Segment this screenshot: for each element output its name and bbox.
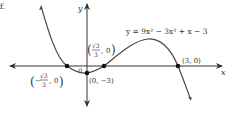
svg-text:): ): [59, 75, 64, 89]
equation-label: y = 9x² − 3x³ + x − 3: [125, 27, 208, 36]
svg-text:,: ,: [49, 77, 51, 85]
pos-root-den: 3: [94, 51, 98, 58]
svg-text:(: (: [30, 75, 35, 89]
point-pos-root: [102, 64, 107, 69]
svg-text:): ): [111, 43, 116, 57]
pos-root-y: 0: [106, 47, 110, 55]
curve-arrow-end-icon: [188, 97, 192, 100]
svg-text:,: ,: [101, 47, 103, 55]
point-neg-root: [65, 64, 70, 69]
pos-root-num: √3: [92, 42, 100, 49]
label-pos-root: ( √3 3 , 0 ): [87, 42, 116, 58]
point-root-3: [176, 64, 181, 69]
label-y-intercept: (0, −3): [89, 77, 114, 85]
neg-root-y: 0: [54, 77, 58, 85]
graph-figure: f. x y 0 y = 9x² − 3x³ + x − 3 ( −: [0, 0, 229, 118]
svg-text:(: (: [87, 43, 92, 57]
origin-label: 0: [78, 67, 82, 75]
neg-root-den: 3: [42, 81, 46, 88]
point-y-intercept: [85, 71, 90, 76]
label-neg-root: ( − √3 3 , 0 ): [30, 72, 64, 89]
neg-root-num: √3: [40, 72, 48, 79]
label-root-3: (3, 0): [182, 57, 201, 65]
x-axis-label: x: [221, 68, 226, 77]
cubic-graph: f. x y 0 y = 9x² − 3x³ + x − 3 ( −: [0, 0, 229, 118]
y-axis-label: y: [77, 4, 83, 13]
problem-label: f.: [0, 2, 5, 11]
y-axis: y: [77, 4, 87, 106]
